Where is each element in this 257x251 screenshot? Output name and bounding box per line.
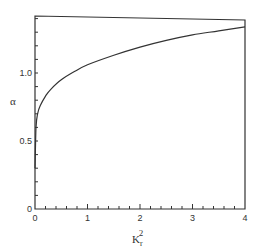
axis-ticks [35,19,235,209]
x-tick-label: 0 [32,213,37,223]
y-tick-label: 1.0 [19,68,32,78]
x-axis-label: Kr2 [132,228,143,248]
tick-labels: 0123400.51.0 [19,68,247,223]
chart: 0123400.51.0 α Kr2 [0,0,257,251]
x-tick-label: 1 [85,213,90,223]
y-tick-label: 0.5 [19,136,32,146]
x-tick-label: 2 [137,213,142,223]
x-tick-label: 4 [242,213,247,223]
plot-frame [35,16,245,209]
y-axis-label: α [10,95,16,107]
y-tick-label: 0 [27,204,32,214]
alpha-curve [35,27,245,168]
x-tick-label: 3 [190,213,195,223]
